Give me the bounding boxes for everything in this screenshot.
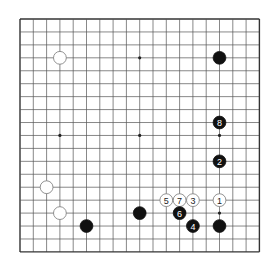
- star-point: [138, 134, 141, 137]
- white-stone: [40, 181, 53, 194]
- star-point: [218, 212, 221, 215]
- black-stone: [80, 220, 93, 233]
- move-number: 6: [177, 209, 182, 219]
- black-stone-8: 8: [213, 116, 226, 129]
- move-number: 4: [190, 222, 195, 232]
- star-point: [138, 56, 141, 59]
- move-number: 3: [190, 196, 195, 206]
- black-stone: [133, 207, 146, 220]
- black-stone-6: 6: [173, 207, 186, 220]
- move-number: 1: [217, 196, 222, 206]
- black-stone: [213, 220, 226, 233]
- white-stone-3: 3: [187, 194, 200, 207]
- stones: 82573164: [40, 51, 226, 232]
- white-stone: [54, 51, 67, 64]
- star-point: [58, 134, 61, 137]
- go-board: 82573164: [0, 0, 278, 267]
- black-stone: [213, 51, 226, 64]
- move-number: 2: [217, 157, 222, 167]
- black-stone-2: 2: [213, 155, 226, 168]
- white-stone: [54, 207, 67, 220]
- black-stone-4: 4: [187, 220, 200, 233]
- move-number: 5: [164, 196, 169, 206]
- white-stone-1: 1: [213, 194, 226, 207]
- white-stone-5: 5: [160, 194, 173, 207]
- move-number: 7: [177, 196, 182, 206]
- star-point: [218, 134, 221, 137]
- white-stone-7: 7: [173, 194, 186, 207]
- move-number: 8: [217, 118, 222, 128]
